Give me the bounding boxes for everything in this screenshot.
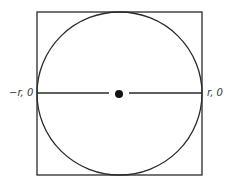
center-point — [115, 90, 123, 98]
right-endpoint-label: r, 0 — [207, 87, 223, 99]
left-endpoint-label: −r, 0 — [9, 87, 33, 99]
circle-in-square-diagram — [0, 0, 232, 185]
